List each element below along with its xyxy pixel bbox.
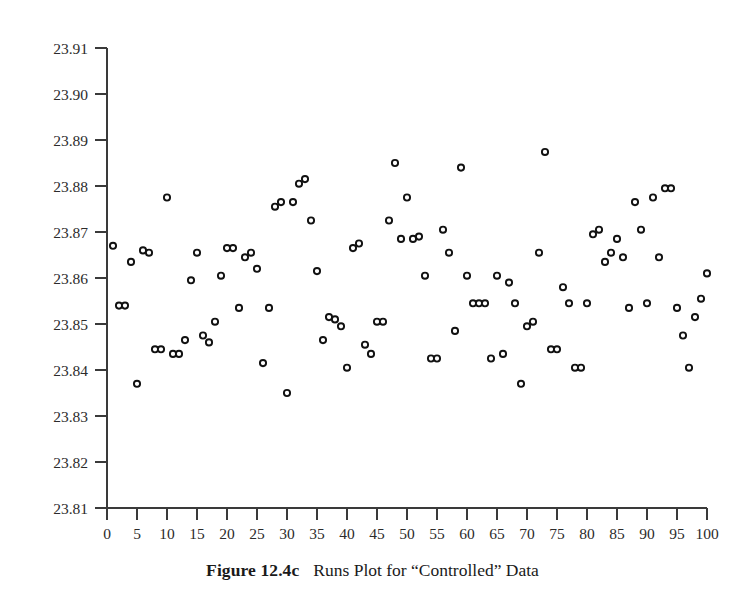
data-point bbox=[596, 227, 602, 233]
data-point bbox=[518, 381, 524, 387]
data-point bbox=[236, 305, 242, 311]
data-point bbox=[464, 273, 470, 279]
runs-plot-chart: 23.8123.8223.8323.8423.8523.8623.8723.88… bbox=[0, 0, 745, 604]
data-point bbox=[122, 303, 128, 309]
x-axis-tick-label: 35 bbox=[309, 525, 325, 542]
data-point bbox=[620, 254, 626, 260]
data-point bbox=[230, 245, 236, 251]
data-point bbox=[422, 273, 428, 279]
y-axis-tick-label: 23.82 bbox=[53, 454, 88, 471]
data-point bbox=[608, 250, 614, 256]
x-axis-tick-label: 100 bbox=[695, 525, 719, 542]
data-point bbox=[686, 365, 692, 371]
x-axis-tick-label: 15 bbox=[189, 525, 205, 542]
data-point bbox=[206, 339, 212, 345]
data-point bbox=[674, 305, 680, 311]
data-point bbox=[284, 390, 290, 396]
x-axis-tick-label: 30 bbox=[279, 525, 295, 542]
data-point bbox=[566, 300, 572, 306]
data-point bbox=[584, 300, 590, 306]
x-axis-tick-label: 0 bbox=[103, 525, 111, 542]
data-point bbox=[632, 199, 638, 205]
data-point bbox=[332, 316, 338, 322]
data-point bbox=[680, 332, 686, 338]
data-point bbox=[278, 199, 284, 205]
data-point bbox=[146, 250, 152, 256]
data-point-group bbox=[110, 149, 710, 396]
data-point bbox=[554, 346, 560, 352]
data-point bbox=[128, 259, 134, 265]
data-point bbox=[188, 277, 194, 283]
data-point bbox=[344, 365, 350, 371]
y-axis-tick-label: 23.85 bbox=[53, 316, 88, 333]
data-point bbox=[368, 351, 374, 357]
data-point bbox=[248, 250, 254, 256]
data-point bbox=[176, 351, 182, 357]
data-point bbox=[362, 342, 368, 348]
data-point bbox=[638, 227, 644, 233]
caption-figure-number: Figure 12.4c bbox=[206, 560, 299, 580]
figure-caption: Figure 12.4cRuns Plot for “Controlled” D… bbox=[0, 560, 745, 581]
data-point bbox=[308, 217, 314, 223]
data-point bbox=[416, 234, 422, 240]
data-point bbox=[668, 185, 674, 191]
x-axis-tick-label: 45 bbox=[369, 525, 385, 542]
data-point bbox=[218, 273, 224, 279]
y-axis-tick-label: 23.83 bbox=[53, 408, 88, 425]
data-point bbox=[338, 323, 344, 329]
y-axis-tick-label: 23.88 bbox=[53, 178, 88, 195]
data-point bbox=[482, 300, 488, 306]
x-axis-tick-label: 65 bbox=[489, 525, 505, 542]
data-point bbox=[110, 243, 116, 249]
data-point bbox=[494, 273, 500, 279]
data-point bbox=[602, 259, 608, 265]
data-point bbox=[512, 300, 518, 306]
data-point bbox=[440, 227, 446, 233]
y-axis-tick-label: 23.91 bbox=[53, 40, 88, 57]
data-point bbox=[500, 351, 506, 357]
x-axis-tick-label: 55 bbox=[429, 525, 445, 542]
data-point bbox=[530, 319, 536, 325]
data-point bbox=[626, 305, 632, 311]
data-point bbox=[692, 314, 698, 320]
y-axis-tick-label: 23.90 bbox=[53, 86, 88, 103]
data-point bbox=[434, 355, 440, 361]
x-axis-tick-label: 70 bbox=[519, 525, 535, 542]
x-axis-tick-label: 25 bbox=[249, 525, 265, 542]
data-point bbox=[590, 231, 596, 237]
data-point bbox=[560, 284, 566, 290]
y-axis-tick-label: 23.87 bbox=[53, 224, 88, 241]
x-axis-tick-label: 95 bbox=[669, 525, 685, 542]
data-point bbox=[488, 355, 494, 361]
data-point bbox=[524, 323, 530, 329]
y-axis-tick-label: 23.86 bbox=[53, 270, 88, 287]
data-point bbox=[404, 194, 410, 200]
y-axis-tick-label: 23.89 bbox=[53, 132, 88, 149]
data-point bbox=[542, 149, 548, 155]
data-point bbox=[164, 194, 170, 200]
data-point bbox=[578, 365, 584, 371]
data-point bbox=[656, 254, 662, 260]
data-point bbox=[302, 176, 308, 182]
x-axis-tick-label: 40 bbox=[339, 525, 355, 542]
data-point bbox=[272, 204, 278, 210]
x-axis-tick-label: 60 bbox=[459, 525, 475, 542]
data-point bbox=[452, 328, 458, 334]
data-point bbox=[290, 199, 296, 205]
data-point bbox=[350, 245, 356, 251]
data-point bbox=[506, 280, 512, 286]
data-point bbox=[386, 217, 392, 223]
data-point bbox=[650, 194, 656, 200]
data-point bbox=[446, 250, 452, 256]
y-axis-tick-label: 23.84 bbox=[53, 362, 88, 379]
x-axis-tick-label: 50 bbox=[399, 525, 415, 542]
x-axis-tick-label: 90 bbox=[639, 525, 655, 542]
x-axis-tick-label: 10 bbox=[159, 525, 175, 542]
data-point bbox=[194, 250, 200, 256]
data-point bbox=[614, 236, 620, 242]
data-point bbox=[158, 346, 164, 352]
caption-title: Runs Plot for “Controlled” Data bbox=[313, 560, 539, 580]
data-point bbox=[644, 300, 650, 306]
data-point bbox=[212, 319, 218, 325]
data-point bbox=[698, 296, 704, 302]
